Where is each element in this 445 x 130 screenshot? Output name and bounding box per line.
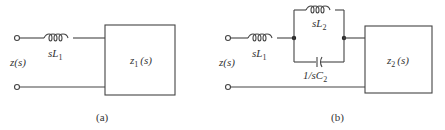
input-terminal-bottom-b <box>226 85 231 90</box>
capacitor-c2-label: 1/sC2 <box>303 69 327 84</box>
circuit-a: sL1 z(s) z1(s) (a) <box>9 25 175 124</box>
input-terminal-top-b <box>226 36 231 41</box>
circuit-diagram: sL1 z(s) z1(s) (a) sL1 sL2 1/sC2 z(s) z2 <box>0 0 445 130</box>
input-terminal-bottom-a <box>15 85 20 90</box>
input-impedance-label-b: z(s) <box>218 56 235 69</box>
input-terminal-top-a <box>15 36 20 41</box>
inductor-l1-b-label: sL1 <box>252 47 266 62</box>
caption-b: (b) <box>331 111 344 124</box>
caption-a: (a) <box>96 111 109 124</box>
inductor-l2-icon <box>306 6 330 13</box>
inductor-l2-label: sL2 <box>312 17 326 32</box>
inductor-l1-a-label: sL1 <box>48 47 62 62</box>
circuit-b: sL1 sL2 1/sC2 z(s) z2(s) (b) <box>218 6 432 124</box>
load-box-z1-label: z1(s) <box>129 54 152 69</box>
input-impedance-label-a: z(s) <box>9 56 26 69</box>
inductor-l1-a-icon <box>44 34 68 41</box>
inductor-l1-b-icon <box>248 34 272 41</box>
load-box-z2-label: z2(s) <box>386 54 409 69</box>
